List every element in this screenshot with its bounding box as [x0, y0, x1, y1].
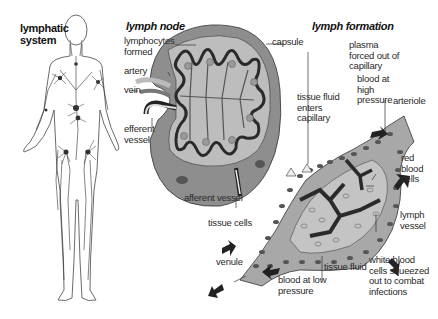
label-red-blood-cells: red blood cells	[401, 153, 423, 185]
label-efferent-vessel: efferent vessel	[124, 124, 154, 145]
label-afferent-vessel: afferent vessel	[184, 193, 243, 204]
label-blood-high-pressure: blood at high pressure	[357, 74, 392, 106]
arrow-icon	[208, 284, 224, 298]
label-lymphocytes-formed: lymphocytes formed	[124, 36, 175, 57]
human-body-figure	[24, 15, 119, 301]
label-capsule: capsule	[272, 37, 303, 48]
label-plasma-forced-out: plasma forced out of capillary	[349, 40, 399, 72]
label-blood-low-pressure: blood at low pressure	[278, 275, 326, 296]
triangle-marker	[286, 168, 296, 176]
lymph-node-title: lymph node	[126, 20, 185, 32]
lymph-formation-title: lymph formation	[312, 20, 394, 32]
label-vein: vein	[124, 85, 141, 96]
label-arteriole: arteriole	[393, 96, 426, 107]
label-artery: artery	[124, 66, 147, 77]
triangle-marker	[302, 164, 312, 172]
label-tissue-fluid-enters: tissue fluid enters capillary	[297, 92, 339, 124]
lymph-nodes-cluster	[45, 62, 101, 154]
label-tissue-fluid: tissue fluid	[324, 262, 366, 273]
lymph-node-rays	[52, 72, 104, 164]
label-white-blood-cells: white blood cells squeezed out to combat…	[369, 255, 429, 297]
label-lymph-vessel: lymph vessel	[400, 210, 426, 231]
label-venule: venule	[216, 257, 243, 268]
arrow-icon	[222, 240, 236, 256]
lymph-vessels	[36, 40, 108, 280]
label-tissue-cells: tissue cells	[208, 218, 252, 229]
lymphatic-system-title: lymphatic system	[20, 22, 69, 46]
